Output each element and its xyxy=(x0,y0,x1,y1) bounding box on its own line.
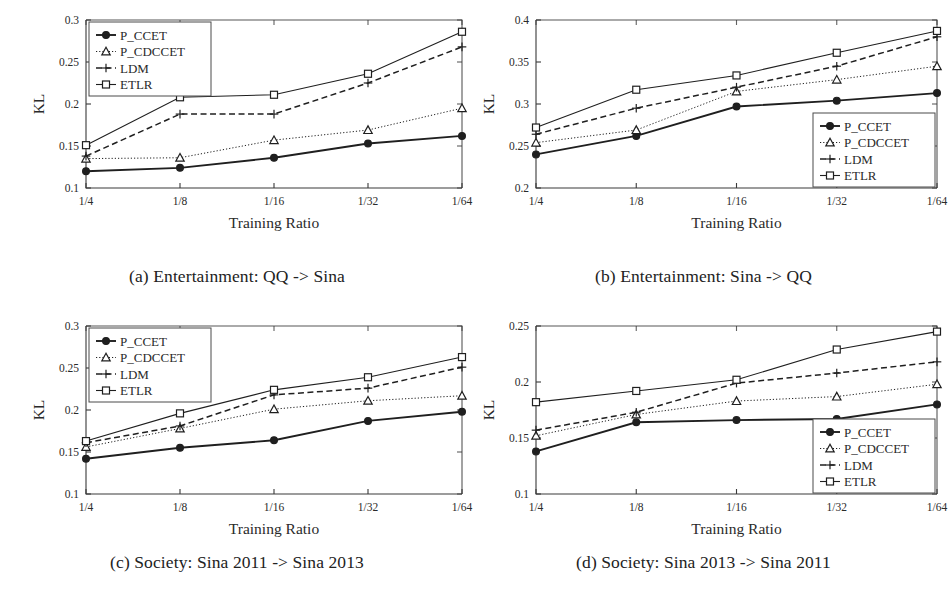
y-axis-title: KL xyxy=(480,400,497,421)
legend-label-P_CDCCET: P_CDCCET xyxy=(844,135,909,150)
legend-label-LDM: LDM xyxy=(120,61,149,76)
x-tick-label: 1/32 xyxy=(827,501,848,513)
y-tick-label: 0.25 xyxy=(509,320,529,332)
y-tick-label: 0.4 xyxy=(515,14,530,26)
y-axis-title: KL xyxy=(480,94,497,115)
y-axis-title: KL xyxy=(30,94,47,115)
y-tick-label: 0.3 xyxy=(515,98,530,110)
panel-a: 0.10.150.20.250.31/41/81/161/321/64Train… xyxy=(0,0,474,306)
x-tick-label: 1/16 xyxy=(726,501,747,513)
x-axis-title: Training Ratio xyxy=(229,520,320,537)
legend-label-ETLR: ETLR xyxy=(844,168,877,183)
x-tick-label: 1/16 xyxy=(264,501,285,513)
x-tick-label: 1/4 xyxy=(79,501,94,513)
panel-c: 0.10.150.20.250.31/41/81/161/321/64Train… xyxy=(0,306,474,613)
legend: P_CCETP_CDCCETLDMETLR xyxy=(89,328,211,402)
panel-d-svg: 0.10.150.20.251/41/81/161/321/64Training… xyxy=(474,306,949,568)
legend-label-P_CCET: P_CCET xyxy=(120,28,167,43)
panel-d: 0.10.150.20.251/41/81/161/321/64Training… xyxy=(474,306,949,613)
panel-c-caption: (c) Society: Sina 2011 -> Sina 2013 xyxy=(0,552,474,573)
x-tick-label: 1/64 xyxy=(927,501,948,513)
y-tick-label: 0.15 xyxy=(59,140,79,152)
y-tick-label: 0.2 xyxy=(65,98,80,110)
legend-label-ETLR: ETLR xyxy=(844,474,877,489)
x-tick-label: 1/32 xyxy=(358,195,379,207)
series-ETLR xyxy=(533,328,941,406)
panel-c-svg: 0.10.150.20.250.31/41/81/161/321/64Train… xyxy=(0,306,474,568)
y-tick-label: 0.15 xyxy=(509,432,529,444)
x-tick-label: 1/8 xyxy=(173,501,188,513)
y-tick-label: 0.35 xyxy=(509,56,529,68)
x-tick-label: 1/32 xyxy=(827,195,848,207)
panel-d-plot: 0.10.150.20.251/41/81/161/321/64Training… xyxy=(474,306,949,568)
y-tick-label: 0.3 xyxy=(65,320,80,332)
y-tick-label: 0.1 xyxy=(65,182,80,194)
x-tick-label: 1/8 xyxy=(629,195,644,207)
x-axis-title: Training Ratio xyxy=(229,214,320,231)
y-tick-label: 0.25 xyxy=(59,56,79,68)
legend-label-LDM: LDM xyxy=(844,458,873,473)
legend-label-P_CDCCET: P_CDCCET xyxy=(844,441,909,456)
x-axis-title: Training Ratio xyxy=(691,520,782,537)
legend: P_CCETP_CDCCETLDMETLR xyxy=(813,419,935,493)
panel-a-svg: 0.10.150.20.250.31/41/81/161/321/64Train… xyxy=(0,0,474,262)
panel-b-svg: 0.20.250.30.350.41/41/81/161/321/64Train… xyxy=(474,0,949,262)
legend: P_CCETP_CDCCETLDMETLR xyxy=(89,22,211,96)
legend-label-P_CCET: P_CCET xyxy=(844,425,891,440)
legend-label-P_CDCCET: P_CDCCET xyxy=(120,44,185,59)
y-tick-label: 0.1 xyxy=(515,488,530,500)
x-tick-label: 1/4 xyxy=(529,195,544,207)
x-axis-title: Training Ratio xyxy=(691,214,782,231)
x-tick-label: 1/16 xyxy=(726,195,747,207)
legend-label-P_CCET: P_CCET xyxy=(120,334,167,349)
y-tick-label: 0.25 xyxy=(509,140,529,152)
x-tick-label: 1/64 xyxy=(452,501,473,513)
x-tick-label: 1/8 xyxy=(629,501,644,513)
legend-label-P_CCET: P_CCET xyxy=(844,119,891,134)
x-tick-label: 1/4 xyxy=(529,501,544,513)
legend-label-P_CDCCET: P_CDCCET xyxy=(120,350,185,365)
x-tick-label: 1/32 xyxy=(358,501,379,513)
panel-b: 0.20.250.30.350.41/41/81/161/321/64Train… xyxy=(474,0,949,306)
series-P_CCET xyxy=(83,408,466,462)
panel-a-caption: (a) Entertainment: QQ -> Sina xyxy=(0,266,474,287)
x-tick-label: 1/64 xyxy=(452,195,473,207)
panel-a-plot: 0.10.150.20.250.31/41/81/161/321/64Train… xyxy=(0,0,474,262)
y-tick-label: 0.25 xyxy=(59,362,79,374)
x-tick-label: 1/64 xyxy=(927,195,948,207)
y-tick-label: 0.15 xyxy=(59,446,79,458)
x-tick-label: 1/8 xyxy=(173,195,188,207)
legend-label-LDM: LDM xyxy=(844,152,873,167)
x-tick-label: 1/16 xyxy=(264,195,285,207)
legend-label-ETLR: ETLR xyxy=(120,383,153,398)
legend: P_CCETP_CDCCETLDMETLR xyxy=(813,113,935,187)
y-tick-label: 0.3 xyxy=(65,14,80,26)
panel-b-caption: (b) Entertainment: Sina -> QQ xyxy=(474,266,949,287)
y-axis-title: KL xyxy=(30,400,47,421)
panel-b-plot: 0.20.250.30.350.41/41/81/161/321/64Train… xyxy=(474,0,949,262)
panel-d-caption: (d) Society: Sina 2013 -> Sina 2011 xyxy=(474,552,949,573)
y-tick-label: 0.2 xyxy=(65,404,80,416)
y-tick-label: 0.2 xyxy=(515,376,530,388)
figure-grid: 0.10.150.20.250.31/41/81/161/321/64Train… xyxy=(0,0,949,613)
y-tick-label: 0.2 xyxy=(515,182,530,194)
legend-label-LDM: LDM xyxy=(120,367,149,382)
panel-c-plot: 0.10.150.20.250.31/41/81/161/321/64Train… xyxy=(0,306,474,568)
x-tick-label: 1/4 xyxy=(79,195,94,207)
legend-label-ETLR: ETLR xyxy=(120,77,153,92)
y-tick-label: 0.1 xyxy=(65,488,80,500)
